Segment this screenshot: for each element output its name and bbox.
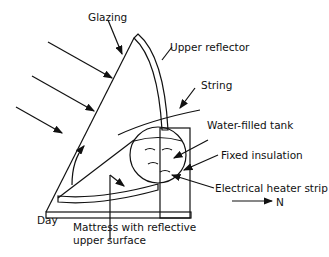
label-day: Day <box>37 214 58 226</box>
insulation <box>160 128 190 218</box>
glazing-line <box>46 38 134 212</box>
sun-ray-1 <box>48 42 112 78</box>
label-mattress-2: upper surface <box>73 234 146 246</box>
upper-reflector <box>134 34 168 130</box>
label-water-tank: Water-filled tank <box>207 119 293 131</box>
sun-ray-2 <box>32 76 94 111</box>
label-heater-strip: Electrical heater strip <box>215 182 328 194</box>
label-upper-reflector: Upper reflector <box>170 41 249 53</box>
label-string: String <box>201 79 232 91</box>
sun-ray-3 <box>16 107 62 133</box>
base <box>46 212 191 218</box>
label-mattress-1: Mattress with reflective <box>73 221 196 233</box>
label-north: N <box>276 196 284 208</box>
label-fixed-insulation: Fixed insulation <box>221 149 303 161</box>
label-glazing: Glazing <box>88 11 127 23</box>
water-tank <box>130 127 186 183</box>
string <box>118 110 200 135</box>
